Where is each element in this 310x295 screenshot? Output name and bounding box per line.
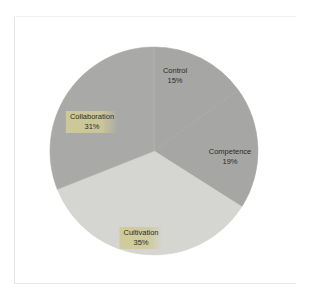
label-control-pct: 15% bbox=[163, 76, 187, 86]
label-cultivation-pct: 35% bbox=[123, 238, 158, 248]
label-competence-pct: 19% bbox=[209, 157, 252, 167]
label-control: Control 15% bbox=[163, 66, 187, 86]
label-control-name: Control bbox=[163, 66, 187, 75]
label-collaboration: Collaboration 31% bbox=[66, 111, 118, 133]
label-competence: Competence 19% bbox=[209, 147, 252, 167]
label-collaboration-name: Collaboration bbox=[70, 112, 114, 121]
label-cultivation-name: Cultivation bbox=[123, 228, 158, 237]
label-competence-name: Competence bbox=[209, 147, 252, 156]
label-collaboration-pct: 31% bbox=[70, 122, 114, 132]
label-cultivation: Cultivation 35% bbox=[119, 227, 162, 249]
pie-chart bbox=[0, 0, 310, 295]
